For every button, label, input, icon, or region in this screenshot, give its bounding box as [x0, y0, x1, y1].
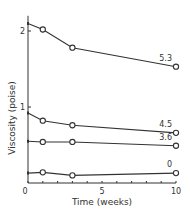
x-tick-label: 10 [171, 187, 181, 196]
data-point-marker [70, 123, 75, 128]
series-label: 4.5 [159, 120, 172, 129]
y-axis-label: Viscosity (poise) [7, 81, 17, 154]
y-tick-label: 2 [20, 27, 25, 36]
data-point-marker [40, 170, 45, 175]
series-line [28, 141, 176, 146]
data-point-marker [173, 64, 178, 69]
series-3-6: 3.6 [28, 133, 179, 149]
series-0: 0 [28, 160, 179, 178]
series-line [28, 23, 176, 66]
data-point-marker [40, 139, 45, 144]
chart-canvas: 051012 5.34.53.60 Time (weeks) Viscosity… [0, 0, 190, 218]
data-point-marker [40, 118, 45, 123]
data-point-marker [70, 173, 75, 178]
data-point-marker [40, 27, 45, 32]
series-label: 3.6 [159, 133, 172, 142]
data-point-marker [173, 171, 178, 176]
x-tick-label: 0 [22, 187, 27, 196]
data-point-marker [70, 45, 75, 50]
series-label: 0 [167, 160, 172, 169]
data-point-marker [173, 143, 178, 148]
series-5-3: 5.3 [28, 22, 179, 69]
series-4-5: 4.5 [28, 112, 179, 136]
series-line [28, 113, 176, 133]
data-point-marker [70, 139, 75, 144]
series-line [28, 172, 176, 175]
series-group: 5.34.53.60 [28, 22, 179, 178]
x-axis-label: Time (weeks) [71, 197, 132, 207]
viscosity-chart: 051012 5.34.53.60 Time (weeks) Viscosity… [0, 0, 190, 218]
y-tick-label: 1 [20, 103, 25, 112]
series-label: 5.3 [159, 54, 172, 63]
axes: 051012 [20, 16, 181, 196]
data-point-marker [173, 130, 178, 135]
x-tick-label: 5 [99, 187, 104, 196]
